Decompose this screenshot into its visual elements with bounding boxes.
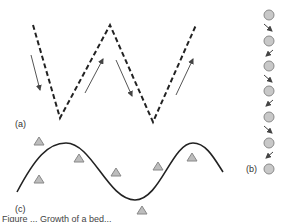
panel-c-triangles <box>34 137 197 214</box>
arrow-down-left-icon <box>266 50 273 56</box>
circle-marker <box>264 164 274 174</box>
arrow-up-icon <box>85 59 103 93</box>
triangle-marker <box>34 175 44 183</box>
panel-b-circles <box>264 10 274 174</box>
triangle-marker <box>153 162 163 170</box>
arrow-down-right-icon <box>264 24 272 31</box>
arrow-down-left-icon <box>266 152 273 158</box>
triangle-marker <box>111 168 121 176</box>
panel-a-zigzag <box>33 25 196 122</box>
panel-a-label: (a) <box>15 119 26 129</box>
arrow-down-left-icon <box>266 100 273 106</box>
circle-marker <box>264 86 274 96</box>
panel-a-arrows <box>31 55 193 96</box>
circle-marker <box>264 61 274 71</box>
triangle-marker <box>74 154 84 162</box>
arrow-down-icon <box>31 55 40 90</box>
figure-caption: Figure ... Growth of a bed... <box>2 214 112 222</box>
arrow-down-right-icon <box>264 126 272 133</box>
triangle-marker <box>137 206 147 214</box>
panel-c-wave <box>17 143 223 200</box>
circle-marker <box>264 138 274 148</box>
circle-marker <box>264 112 274 122</box>
triangle-marker <box>34 137 44 145</box>
circle-marker <box>264 10 274 20</box>
panel-b-label: (b) <box>246 164 257 174</box>
circle-marker <box>264 36 274 46</box>
arrow-down-right-icon <box>264 75 272 82</box>
figure-canvas: (a) (b) (c) <box>0 0 290 222</box>
triangle-marker <box>187 153 197 161</box>
panel-c-label: (c) <box>15 204 26 214</box>
arrow-down-icon <box>116 60 132 96</box>
